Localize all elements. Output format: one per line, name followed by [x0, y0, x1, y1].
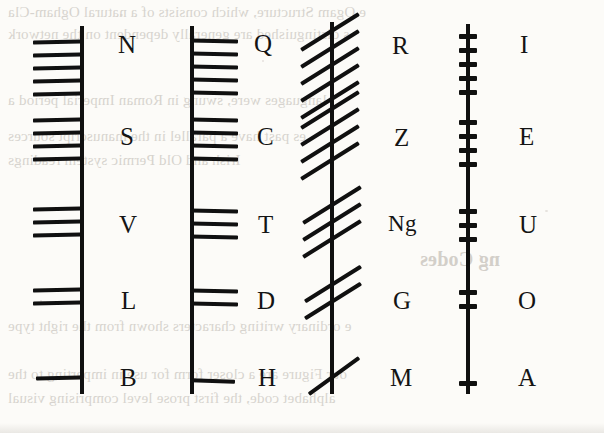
- ogham-letter-label: T: [258, 211, 274, 239]
- ogham-stroke: [190, 221, 238, 226]
- ogham-letter-label: N: [118, 31, 137, 59]
- ogham-letter-label: D: [257, 287, 276, 315]
- ogham-stroke: [190, 208, 238, 213]
- ogham-stroke: [190, 51, 238, 56]
- ogham-letter-label: I: [520, 31, 529, 59]
- ogham-letter-label: R: [392, 32, 409, 60]
- ogham-stroke: [33, 78, 81, 83]
- ogham-notch: [459, 381, 477, 386]
- ogham-letter-label: H: [258, 364, 277, 392]
- ogham-letter-label: Q: [254, 30, 273, 58]
- ogham-notch: [459, 209, 477, 214]
- ogham-notch: [459, 134, 477, 139]
- ogham-stroke: [33, 232, 81, 237]
- ogham-letter-label: E: [519, 123, 535, 151]
- ogham-stroke: [33, 156, 81, 161]
- ogham-stroke: [190, 77, 238, 82]
- ogham-stroke: [190, 64, 238, 69]
- ogham-stroke: [190, 156, 238, 161]
- ogham-stroke: [33, 300, 81, 305]
- ogham-notch: [459, 34, 477, 39]
- ogham-stroke: [33, 143, 81, 148]
- ogham-stroke: [33, 219, 81, 224]
- ogham-letter-label: Ng: [388, 211, 417, 237]
- ogham-notch: [459, 304, 477, 309]
- ogham-notch: [459, 223, 477, 228]
- scanned-page: e Ogam Structure, which consists of a na…: [0, 0, 604, 433]
- ogham-stroke: [33, 287, 81, 292]
- ogham-stroke: [190, 117, 238, 122]
- ogham-stroke: [33, 52, 81, 57]
- ogham-letter-label: A: [518, 364, 537, 392]
- ogham-letter-label: O: [518, 287, 537, 315]
- ogham-letter-label: U: [519, 211, 538, 239]
- ogham-letter-label: L: [121, 287, 137, 315]
- ogham-stroke: [190, 38, 238, 43]
- ogham-notch: [459, 76, 477, 81]
- ogham-stroke: [190, 143, 238, 148]
- ogham-stroke: [33, 117, 81, 122]
- ogham-stroke: [33, 130, 81, 135]
- ogham-notch: [459, 62, 477, 67]
- ogham-stroke: [190, 90, 238, 95]
- ogham-stroke: [190, 378, 235, 384]
- ogham-notch: [459, 148, 477, 153]
- ogham-notch: [459, 162, 477, 167]
- ogham-stroke: [36, 375, 81, 380]
- ogham-notch: [459, 120, 477, 125]
- ogham-letter-label: Z: [394, 124, 410, 152]
- ogham-letter-label: B: [120, 364, 137, 392]
- ogham-stroke: [33, 39, 81, 44]
- ogham-stroke: [33, 65, 81, 70]
- ogham-letter-label: C: [257, 123, 274, 151]
- ogham-stroke: [190, 288, 238, 293]
- ogham-stroke: [33, 91, 81, 96]
- ogham-notch: [459, 48, 477, 53]
- ogham-letter-label: V: [119, 211, 138, 239]
- ogham-stroke: [190, 130, 238, 135]
- ogham-notch: [459, 90, 477, 95]
- ogham-stroke: [190, 234, 238, 239]
- ogham-notch: [459, 237, 477, 242]
- ogham-notch: [459, 290, 477, 295]
- ogham-letter-label: S: [120, 123, 134, 151]
- ogham-stroke: [308, 356, 361, 396]
- ogham-alphabet-chart: N S V L: [0, 0, 604, 433]
- ogham-letter-label: M: [390, 364, 413, 392]
- ogham-letter-label: G: [393, 287, 412, 315]
- ogham-stroke: [190, 301, 238, 306]
- ogham-stroke: [33, 206, 81, 211]
